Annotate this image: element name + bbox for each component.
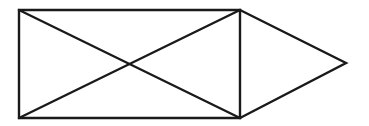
diagram-canvas xyxy=(0,0,369,126)
geometric-figure xyxy=(0,0,369,126)
triangle-arrowhead xyxy=(240,10,346,118)
